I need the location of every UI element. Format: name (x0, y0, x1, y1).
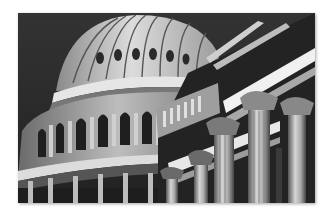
capitol-photo (18, 13, 315, 203)
capitol-illustration (18, 13, 315, 203)
